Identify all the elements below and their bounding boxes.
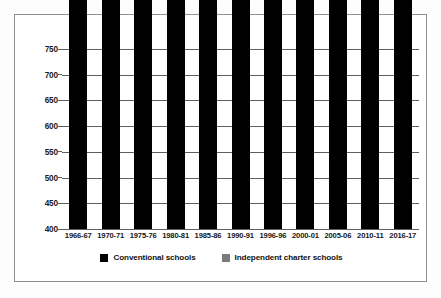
x-tick-label-1975-76: 1975-76: [130, 231, 157, 240]
x-tick-label-2016-17: 2016-17: [389, 231, 416, 240]
legend-item-conventional[interactable]: Conventional schools: [100, 253, 195, 262]
x-tick-label-1970-71: 1970-71: [97, 231, 124, 240]
y-tick-label-550: 550: [45, 147, 58, 156]
y-axis-tick-labels: 400450500550600650700750: [15, 49, 58, 229]
x-tick-label-1985-86: 1985-86: [195, 231, 222, 240]
bar-segment-1966-67-conventional[interactable]: [69, 0, 87, 229]
x-tick-label-2000-01: 2000-01: [292, 231, 319, 240]
x-axis-tick-labels: 1966-671970-711975-761980-811985-861990-…: [62, 231, 419, 245]
bar-segment-1975-76-conventional[interactable]: [134, 0, 152, 229]
y-tick-label-750: 750: [45, 45, 58, 54]
bar-segment-1970-71-conventional[interactable]: [102, 0, 120, 229]
y-tick-label-700: 700: [45, 70, 58, 79]
bar-segment-2000-01-conventional[interactable]: [296, 0, 314, 229]
x-tick-label-2010-11: 2010-11: [357, 231, 383, 240]
y-tick-label-500: 500: [45, 173, 58, 182]
bar-segment-1985-86-conventional[interactable]: [199, 0, 217, 229]
gridline-400: [62, 229, 419, 230]
figure-canvas: Student enrollment in thousands 40045050…: [0, 0, 441, 298]
y-tick-label-600: 600: [45, 122, 58, 131]
bar-segment-2005-06-conventional[interactable]: [329, 0, 347, 229]
bar-segment-1996-96-conventional[interactable]: [264, 0, 282, 229]
y-tick-label-400: 400: [45, 225, 58, 234]
x-tick-label-2005-06: 2005-06: [324, 231, 351, 240]
legend-swatch-icon: [222, 254, 230, 262]
x-tick-label-1990-91: 1990-91: [227, 231, 254, 240]
chart-legend: Conventional schoolsIndependent charter …: [15, 253, 428, 262]
legend-swatch-icon: [100, 254, 108, 262]
bar-segment-2016-17-conventional[interactable]: [394, 0, 412, 229]
bar-segment-2010-11-conventional[interactable]: [361, 0, 379, 229]
x-tick-label-1966-67: 1966-67: [65, 231, 92, 240]
x-tick-label-1996-96: 1996-96: [260, 231, 287, 240]
y-tick-label-650: 650: [45, 96, 58, 105]
legend-item-charter[interactable]: Independent charter schools: [222, 253, 343, 262]
legend-label: Independent charter schools: [235, 253, 343, 262]
chart-frame: Student enrollment in thousands 40045050…: [14, 14, 427, 282]
y-tick-label-450: 450: [45, 199, 58, 208]
x-tick-label-1980-81: 1980-81: [162, 231, 189, 240]
legend-label: Conventional schools: [113, 253, 195, 262]
bar-segment-1980-81-conventional[interactable]: [167, 0, 185, 229]
plot-area: [62, 49, 419, 229]
bar-segment-1990-91-conventional[interactable]: [232, 0, 250, 229]
